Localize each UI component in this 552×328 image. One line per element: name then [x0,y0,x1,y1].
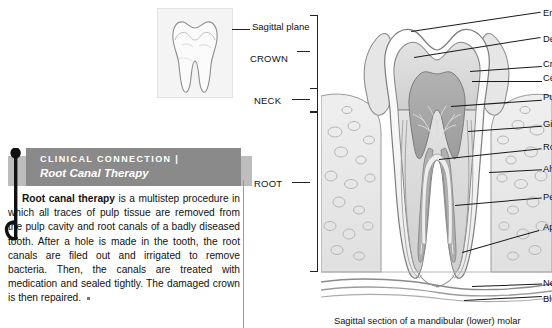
label-dentin: Dentin [543,34,552,45]
label-root-canal: Root canal [543,142,552,153]
leader-line-cementum [472,81,542,82]
leader-line-apical-foramen [462,230,539,253]
leader-line-nerve [472,284,542,287]
label-callouts-layer: Enamel Dentin Crown Cementum Pulp cavity… [0,0,552,328]
leader-line-blood-vessels [464,296,542,301]
label-nerve: Nerve [543,278,552,289]
leader-line-periodontal-ligament [455,197,542,206]
label-enamel: Enamel [543,8,552,19]
label-apical-foramen: Apical foramen [543,222,552,233]
label-blood-vessels: Blood vessels [543,294,552,305]
leader-line-pulp-cavity [451,100,542,107]
figure-caption: Sagittal section of a mandibular (lower)… [334,316,549,327]
label-gingiva: Gingiva [543,119,552,130]
label-periodontal-ligament: Periodontal ligament [543,192,552,203]
leader-line-root-canal [439,148,542,160]
label-alveolar-bone: Alveolar bone [543,164,552,175]
page-root: Sagittal plane CLINICAL CONNECTION | Roo… [0,0,552,328]
label-crown: Crown [543,59,552,70]
leader-line-alveolar-bone [489,169,542,173]
leader-line-enamel [411,12,541,32]
leader-line-gingiva [468,126,542,132]
label-pulp-cavity: Pulp cavity [543,92,552,103]
leader-line-dentin [414,37,541,58]
label-cementum: Cementum [543,73,552,84]
leader-line-crown [470,66,542,72]
